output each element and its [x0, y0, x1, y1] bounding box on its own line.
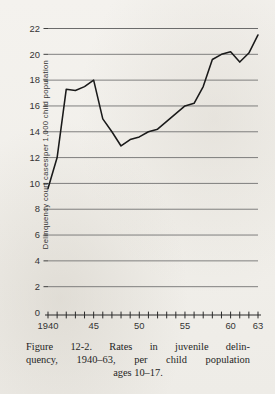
caption-line-3: ages 10–17.: [26, 366, 250, 379]
y-tick-label-16: 16: [30, 100, 40, 111]
data-line-series: [48, 35, 258, 189]
y-tick-label-10: 10: [30, 178, 40, 189]
y-tick-label-14: 14: [30, 126, 40, 137]
y-tick-label-0: 0: [35, 307, 40, 318]
x-tick-label-1950: 50: [134, 320, 144, 331]
y-tick-label-20: 20: [30, 49, 40, 60]
y-tick-marks-group: [44, 29, 49, 287]
x-tick-label-1960: 60: [225, 320, 235, 331]
y-tick-label-18: 18: [30, 74, 40, 85]
x-tick-label-1940: 1940: [38, 320, 59, 331]
y-tick-label-6: 6: [35, 229, 40, 240]
y-tick-label-22: 22: [30, 23, 40, 34]
y-tick-label-8: 8: [35, 203, 40, 214]
y-tick-label-4: 4: [35, 255, 40, 266]
caption-line-2: quency, 1940–63, per child population: [26, 353, 250, 366]
y-tick-label-2: 2: [35, 281, 40, 292]
x-tick-label-1963: 63: [253, 320, 263, 331]
x-tick-label-1955: 55: [180, 320, 190, 331]
y-axis-tick-labels: 0246810121416182022: [30, 23, 40, 318]
data-line-delinquency-rate: [48, 35, 258, 189]
gridlines-group: [48, 29, 258, 287]
y-tick-label-12: 12: [30, 152, 40, 163]
x-axis-tick-labels: 19404550556063: [38, 320, 264, 331]
figure-caption: Figure 12-2. Rates in juvenile delin- qu…: [26, 340, 250, 380]
x-tick-label-1945: 45: [88, 320, 98, 331]
figure-chart: Delinquency court cases per 1,000 child …: [0, 0, 275, 335]
caption-line-1: Figure 12-2. Rates in juvenile delin-: [26, 340, 250, 353]
line-chart-plot: 0246810121416182022 19404550556063: [0, 0, 275, 335]
